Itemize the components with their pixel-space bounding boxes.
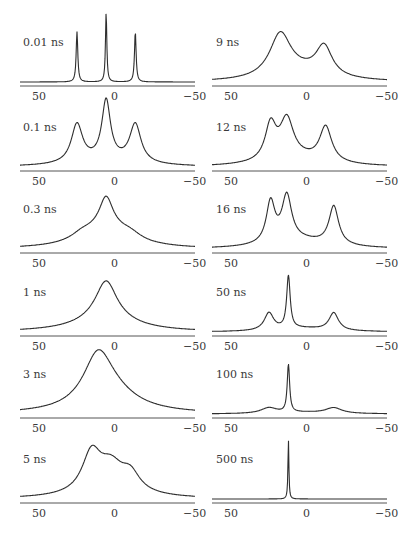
panel-time-label: 5 ns: [23, 453, 46, 466]
panel-time-label: 16 ns: [216, 203, 246, 216]
x-tick-label: −50: [375, 507, 398, 520]
spectrum-panel: 0.3 ns500−50: [20, 173, 210, 257]
panel-time-label: 0.1 ns: [23, 121, 57, 134]
panel-time-label: 500 ns: [216, 453, 253, 466]
spectrum-panel: 0.01 ns500−50: [20, 6, 210, 90]
spectrum-curve: [212, 192, 387, 247]
panel-time-label: 100 ns: [216, 368, 253, 381]
panel-time-label: 0.3 ns: [23, 203, 57, 216]
spectrum-panel: 12 ns500−50: [212, 91, 402, 175]
spectra-figure: 0.01 ns500−500.1 ns500−500.3 ns500−501 n…: [0, 0, 406, 537]
panel-time-label: 12 ns: [216, 121, 246, 134]
spectrum-panel: 0.1 ns500−50: [20, 91, 210, 175]
spectrum-panel: 3 ns500−50: [20, 338, 210, 422]
spectrum-curve: [20, 445, 195, 496]
x-tick-label: 0: [303, 507, 310, 520]
spectrum-panel: 5 ns500−50: [20, 423, 210, 507]
panel-time-label: 1 ns: [23, 286, 46, 299]
x-tick-label: −50: [183, 507, 206, 520]
spectrum-panel: 500 ns500−50: [212, 423, 402, 507]
panel-time-label: 0.01 ns: [23, 36, 64, 49]
x-tick-label: 50: [32, 507, 46, 520]
spectrum-panel: 100 ns500−50: [212, 338, 402, 422]
spectrum-panel: 16 ns500−50: [212, 173, 402, 257]
panel-time-label: 9 ns: [216, 36, 239, 49]
spectrum-panel: 1 ns500−50: [20, 256, 210, 340]
panel-time-label: 50 ns: [216, 286, 246, 299]
spectrum-panel: 9 ns500−50: [212, 6, 402, 90]
panel-time-label: 3 ns: [23, 368, 46, 381]
spectrum-panel: 50 ns500−50: [212, 256, 402, 340]
spectrum-curve: [212, 275, 387, 331]
x-tick-label: 0: [111, 507, 118, 520]
spectrum-curve: [20, 281, 195, 330]
spectrum-curve: [212, 441, 387, 499]
spectrum-curve: [20, 350, 195, 410]
x-tick-label: 50: [224, 507, 238, 520]
